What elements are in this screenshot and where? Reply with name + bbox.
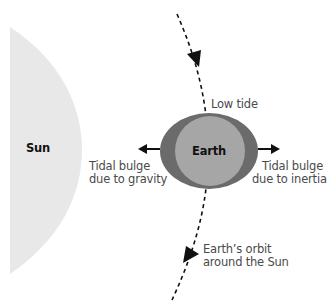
bulge-inertia-label-line2: due to inertia bbox=[252, 173, 327, 186]
bulge-gravity-label-line2: due to gravity bbox=[89, 173, 167, 186]
orbit-label-line2: around the Sun bbox=[203, 256, 289, 269]
orbit-direction-arrow-top bbox=[187, 50, 201, 67]
inertia-arrow-head bbox=[271, 144, 280, 154]
low-tide-label: Low tide bbox=[211, 98, 258, 111]
orbit-direction-arrow-bottom bbox=[183, 246, 199, 263]
earth-label: Earth bbox=[192, 145, 226, 158]
sun-label: Sun bbox=[26, 142, 50, 155]
gravity-arrow-head bbox=[138, 144, 147, 154]
